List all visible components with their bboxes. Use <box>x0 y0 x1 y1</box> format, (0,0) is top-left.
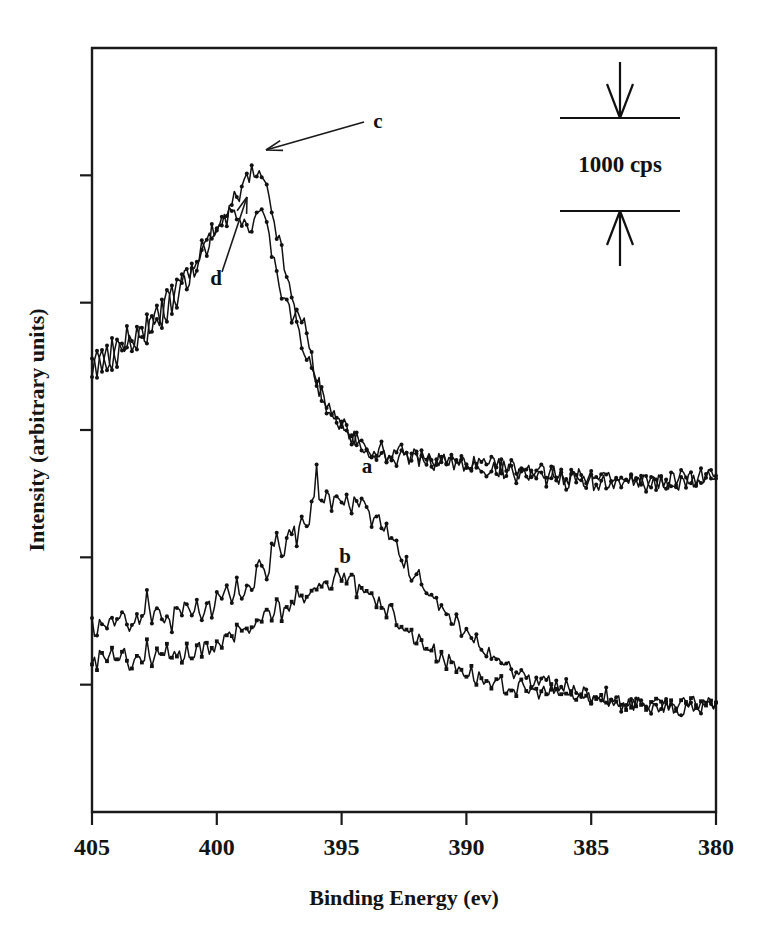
data-point <box>225 633 229 637</box>
data-point <box>534 469 538 473</box>
data-point <box>95 668 99 672</box>
data-point <box>679 468 683 472</box>
data-point <box>215 639 219 643</box>
data-point <box>434 457 438 461</box>
data-point <box>335 416 339 420</box>
curve-label-b: b <box>339 544 351 568</box>
data-point <box>425 463 429 467</box>
data-point <box>155 647 159 651</box>
data-point <box>100 651 104 655</box>
data-point <box>499 674 503 678</box>
data-point <box>519 678 523 682</box>
data-point <box>345 493 349 497</box>
data-point <box>569 689 573 693</box>
data-point <box>479 648 483 652</box>
data-point <box>699 712 703 716</box>
trace-c <box>90 163 718 492</box>
data-point <box>504 474 508 478</box>
data-point <box>195 260 199 264</box>
data-point <box>689 696 693 700</box>
data-point <box>105 659 109 663</box>
data-point <box>190 261 194 265</box>
data-point <box>300 321 304 325</box>
data-point <box>175 277 179 281</box>
intensity-scale-bar: 1000 cps <box>560 62 680 266</box>
data-point <box>639 474 643 478</box>
data-point <box>375 605 379 609</box>
data-point <box>684 486 688 490</box>
data-point <box>140 326 144 330</box>
data-point <box>350 433 354 437</box>
data-point <box>355 430 359 434</box>
data-point <box>594 697 598 701</box>
data-point <box>444 463 448 467</box>
data-point <box>150 664 154 668</box>
data-point <box>375 458 379 462</box>
data-point <box>95 376 99 380</box>
data-point <box>260 564 264 568</box>
data-point <box>554 476 558 480</box>
data-point <box>280 297 284 301</box>
data-point <box>305 358 309 362</box>
data-point <box>564 488 568 492</box>
data-point <box>210 222 214 226</box>
data-point <box>125 659 129 663</box>
data-point <box>315 463 319 467</box>
data-point <box>320 585 324 589</box>
data-point <box>230 209 234 213</box>
data-point <box>574 691 578 695</box>
trace-line-b <box>92 570 716 713</box>
data-point <box>90 663 94 667</box>
data-point <box>100 370 104 374</box>
curve-label-a: a <box>362 454 373 478</box>
data-point <box>335 494 339 498</box>
trace-markers-b <box>90 568 718 713</box>
data-point <box>669 470 673 474</box>
data-point <box>654 703 658 707</box>
data-point <box>400 448 404 452</box>
data-point <box>285 536 289 540</box>
data-point <box>524 676 528 680</box>
data-point <box>599 472 603 476</box>
data-point <box>439 455 443 459</box>
data-point <box>145 637 149 641</box>
data-point <box>624 478 628 482</box>
data-point <box>420 448 424 452</box>
data-point <box>245 583 249 587</box>
data-point <box>405 451 409 455</box>
spectrum-svg-canvas: 405400395390385380 cdab 1000 cps Binding… <box>0 0 765 938</box>
data-point <box>579 473 583 477</box>
data-point <box>365 448 369 452</box>
data-point <box>185 267 189 271</box>
data-point <box>604 472 608 476</box>
data-point <box>445 667 449 671</box>
data-point <box>350 511 354 515</box>
x-axis-title: Binding Energy (ev) <box>309 885 498 910</box>
data-point <box>290 321 294 325</box>
data-point <box>475 683 479 687</box>
data-point <box>275 531 279 535</box>
trace-a <box>90 463 718 718</box>
data-point <box>709 699 713 703</box>
data-point <box>454 458 458 462</box>
data-point <box>405 555 409 559</box>
data-point <box>549 465 553 469</box>
data-point <box>514 670 518 674</box>
data-point <box>155 317 159 321</box>
data-point <box>504 692 508 696</box>
data-point <box>315 588 319 592</box>
data-point <box>260 175 264 179</box>
data-point <box>240 184 244 188</box>
data-point <box>474 632 478 636</box>
data-point <box>270 619 274 623</box>
data-point <box>410 452 414 456</box>
data-point <box>649 700 653 704</box>
data-point <box>450 660 454 664</box>
data-point <box>200 238 204 242</box>
data-point <box>110 646 114 650</box>
data-point <box>490 687 494 691</box>
x-tick-label: 380 <box>698 834 734 860</box>
data-point <box>140 335 144 339</box>
data-point <box>335 421 339 425</box>
data-point <box>629 706 633 710</box>
